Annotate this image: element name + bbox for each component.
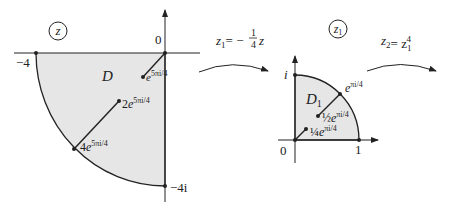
map2-arrow — [367, 65, 436, 72]
region-label-D: D — [101, 68, 113, 84]
map1-formula: z1= − — [215, 33, 243, 50]
svg-text:1: 1 — [251, 27, 256, 38]
map1-arrow — [199, 65, 268, 72]
origin-label: 0 — [155, 32, 162, 47]
one-label: 1 — [355, 142, 362, 157]
origin-label-right: 0 — [280, 143, 287, 158]
conformal-map-diagram: z 0 −4 −4i D e5πi/4 2e5πi/4 4e5πi/4 z1= … — [0, 0, 450, 216]
neg-four-label: −4 — [16, 55, 30, 70]
map-2: z2= z14 — [367, 33, 436, 71]
imag-unit-label: i — [284, 67, 288, 82]
map2-formula: z2= z14 — [380, 33, 411, 53]
right-plane: z1 i 0 1 D1 eπi/4 ½eπi/4 ¼eπi/4 — [278, 20, 378, 163]
left-plane: z 0 −4 −4i D e5πi/4 2e5πi/4 4e5πi/4 — [14, 10, 200, 202]
plane-label-z: z — [54, 23, 60, 38]
plane-label-z1: z1 — [333, 22, 343, 37]
point-label-r1: eπi/4 — [345, 80, 363, 95]
svg-text:z: z — [258, 33, 264, 48]
neg-four-i-label: −4i — [170, 180, 188, 195]
map-1: z1= − 1 4 z — [199, 27, 268, 72]
svg-text:4: 4 — [251, 39, 256, 50]
